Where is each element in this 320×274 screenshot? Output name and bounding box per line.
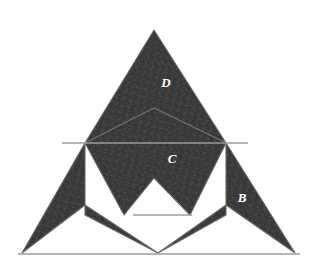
piece-label-c: C [168,151,177,166]
piece-label-a: A [99,190,109,205]
triangle-dissection-diagram: D C A B [0,0,320,274]
piece-label-d: D [160,75,171,90]
piece-label-b: B [237,190,247,205]
figure-canvas: D C A B [0,0,320,274]
